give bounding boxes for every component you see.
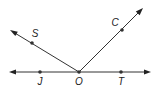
point-j <box>38 70 42 74</box>
point-t <box>119 70 123 74</box>
label-c: C <box>111 17 119 28</box>
ray-oc <box>79 12 140 73</box>
geometry-diagram: J O T S C <box>0 0 160 100</box>
arrow-right-icon <box>144 70 151 75</box>
label-j: J <box>37 76 44 87</box>
point-s <box>30 41 34 45</box>
label-s: S <box>32 28 39 39</box>
arrow-left-icon <box>9 70 16 75</box>
point-o <box>77 70 81 74</box>
label-t: T <box>118 76 125 87</box>
label-o: O <box>75 76 83 87</box>
arrow-s-icon <box>10 30 18 36</box>
point-c <box>120 28 124 32</box>
ray-os <box>14 33 79 73</box>
